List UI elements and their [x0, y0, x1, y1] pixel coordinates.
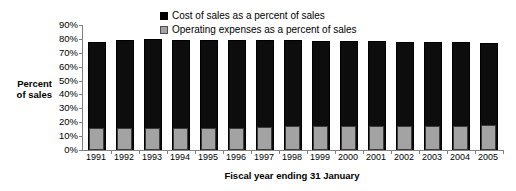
y-axis-tick-label: 0%: [38, 145, 78, 155]
bar-group: [424, 25, 442, 150]
bar-group: [116, 25, 134, 150]
y-axis-tick-label: 80%: [38, 34, 78, 44]
bar-operating-expenses: [369, 126, 385, 150]
y-axis-tick-label: 30%: [38, 103, 78, 113]
x-axis-tick-label: 2003: [418, 152, 446, 163]
x-axis-tick-label: 2000: [334, 152, 362, 163]
legend-item-cost-of-sales: Cost of sales as a percent of sales: [160, 9, 410, 22]
bar-operating-expenses: [89, 128, 105, 150]
bar-operating-expenses: [285, 126, 301, 150]
y-axis-tick-label: 20%: [38, 117, 78, 127]
bar-group: [144, 25, 162, 150]
x-axis-tick-label: 1991: [82, 152, 110, 163]
bar-operating-expenses: [257, 127, 273, 150]
bar-operating-expenses: [229, 128, 245, 150]
x-axis-tick-label: 2002: [390, 152, 418, 163]
x-axis-title: Fiscal year ending 31 January: [82, 170, 502, 182]
x-axis-tick-label: 1993: [138, 152, 166, 163]
y-axis-tick-labels: 90%80%70%60%50%40%30%20%10%0%: [38, 20, 78, 155]
y-axis-tick-label: 10%: [38, 131, 78, 141]
bar-group: [480, 25, 498, 150]
bar-operating-expenses: [201, 128, 217, 150]
x-axis-tick-label: 1992: [110, 152, 138, 163]
x-axis-tick-label: 1994: [166, 152, 194, 163]
bar-group: [200, 25, 218, 150]
x-axis-tick-label: 1998: [278, 152, 306, 163]
x-axis-tick-label: 1997: [250, 152, 278, 163]
x-axis-tick-label: 2005: [474, 152, 502, 163]
x-axis-tick-mark: [503, 150, 504, 154]
bar-group: [256, 25, 274, 150]
legend-label-cost-of-sales: Cost of sales as a percent of sales: [172, 10, 325, 21]
x-axis-tick-label: 2001: [362, 152, 390, 163]
bar-group: [340, 25, 358, 150]
x-axis-tick-label: 1995: [194, 152, 222, 163]
y-axis-tick-mark: [79, 150, 83, 151]
bar-group: [172, 25, 190, 150]
bar-operating-expenses: [481, 125, 497, 150]
x-axis-tick-label: 1999: [306, 152, 334, 163]
bar-group: [228, 25, 246, 150]
legend-swatch-icon-cost-of-sales: [160, 12, 168, 20]
x-axis-tick-label: 1996: [222, 152, 250, 163]
y-axis-tick-label: 90%: [38, 20, 78, 30]
bar-operating-expenses: [341, 126, 357, 150]
bar-group: [396, 25, 414, 150]
bar-group: [368, 25, 386, 150]
bar-group: [312, 25, 330, 150]
bar-operating-expenses: [397, 126, 413, 150]
bar-operating-expenses: [145, 128, 161, 150]
x-axis-tick-label: 2004: [446, 152, 474, 163]
bar-chart: Cost of sales as a percent of sales Oper…: [0, 0, 516, 191]
y-axis-tick-label: 60%: [38, 62, 78, 72]
bar-operating-expenses: [117, 128, 133, 150]
plot-area: [82, 25, 503, 151]
bar-group: [452, 25, 470, 150]
x-axis-tick-labels: 1991199219931994199519961997199819992000…: [82, 152, 502, 166]
bar-series-container: [83, 25, 503, 150]
bar-operating-expenses: [453, 126, 469, 150]
bar-operating-expenses: [313, 126, 329, 150]
bar-operating-expenses: [425, 126, 441, 150]
bar-group: [284, 25, 302, 150]
bar-group: [88, 25, 106, 150]
y-axis-tick-label: 70%: [38, 48, 78, 58]
bar-operating-expenses: [173, 128, 189, 150]
y-axis-tick-label: 50%: [38, 76, 78, 86]
y-axis-tick-label: 40%: [38, 89, 78, 99]
